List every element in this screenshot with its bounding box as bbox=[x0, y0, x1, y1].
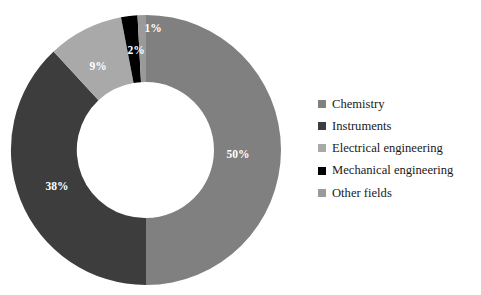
legend-label-electrical-engineering: Electrical engineering bbox=[332, 142, 443, 155]
slice-label-electrical-engineering: 9% bbox=[89, 60, 106, 72]
legend-swatch-chemistry bbox=[318, 100, 326, 108]
legend-label-instruments: Instruments bbox=[332, 120, 391, 133]
slice-chemistry[interactable] bbox=[146, 15, 281, 285]
legend-label-chemistry: Chemistry bbox=[332, 98, 384, 111]
legend-item-electrical-engineering[interactable]: Electrical engineering bbox=[318, 137, 481, 159]
doughnut-chart: 50% 38% 9% 2% 1% bbox=[0, 0, 300, 295]
legend-swatch-electrical-engineering bbox=[318, 144, 326, 152]
legend-swatch-mechanical-engineering bbox=[318, 167, 326, 175]
legend-item-mechanical-engineering[interactable]: Mechanical engineering bbox=[318, 160, 481, 182]
legend-item-other-fields[interactable]: Other fields bbox=[318, 182, 481, 204]
legend-swatch-other-fields bbox=[318, 189, 326, 197]
legend-swatch-instruments bbox=[318, 122, 326, 130]
legend-item-instruments[interactable]: Instruments bbox=[318, 115, 481, 137]
slice-label-mechanical-engineering: 2% bbox=[127, 44, 144, 56]
doughnut-chart-svg: 50% 38% 9% 2% 1% bbox=[0, 0, 300, 295]
chart-legend: Chemistry Instruments Electrical enginee… bbox=[318, 93, 481, 204]
slice-label-instruments: 38% bbox=[46, 180, 69, 192]
legend-label-other-fields: Other fields bbox=[332, 187, 392, 200]
slice-label-other-fields: 1% bbox=[144, 22, 161, 34]
slice-label-chemistry: 50% bbox=[227, 148, 250, 160]
slice-instruments[interactable] bbox=[11, 52, 146, 286]
legend-label-mechanical-engineering: Mechanical engineering bbox=[332, 164, 453, 177]
legend-item-chemistry[interactable]: Chemistry bbox=[318, 93, 481, 115]
